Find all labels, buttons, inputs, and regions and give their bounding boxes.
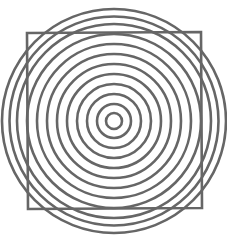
ring-3 <box>87 94 141 148</box>
ring-11 <box>10 17 219 226</box>
concentric-circles <box>2 9 226 233</box>
ring-12 <box>2 9 226 233</box>
illusion-figure <box>0 0 227 239</box>
ring-6 <box>57 64 171 178</box>
ring-9 <box>27 34 201 208</box>
ring-2 <box>97 104 131 138</box>
ring-1 <box>106 113 122 129</box>
ring-5 <box>67 74 161 168</box>
ring-8 <box>37 44 191 198</box>
concentric-circles-square-diagram <box>0 0 227 239</box>
